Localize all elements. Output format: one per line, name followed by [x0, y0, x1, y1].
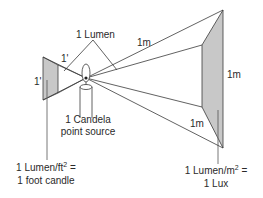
lux-caption-line1: 1 Lumen/m2 = [185, 165, 248, 176]
lux-caption-line2: 1 Lux [204, 178, 228, 189]
candle-point-source [80, 64, 92, 118]
foot-candle-caption-line1: 1 Lumen/ft2 = [16, 162, 76, 173]
foot-candle-equals: = [67, 162, 76, 173]
large-plane-top-edge-label: 1m [137, 37, 151, 48]
large-plane-bottom-edge-label: 1m [190, 118, 204, 129]
large-plane-face [202, 10, 223, 148]
lux-unit: 1 Lumen/m [185, 165, 235, 176]
large-plane [202, 10, 223, 148]
foot-candle-unit: 1 Lumen/ft [16, 162, 63, 173]
foot-candle-caption-line2: 1 foot candle [17, 175, 74, 186]
lumen-label: 1 Lumen [76, 29, 115, 40]
lux-equals: = [239, 165, 248, 176]
source-caption-line1: 1 Candela [65, 114, 111, 125]
point-source-dot [84, 76, 87, 79]
source-caption-line2: point source [61, 126, 115, 137]
large-plane-side-edge-label: 1m [227, 69, 241, 80]
candle-top [80, 85, 92, 90]
small-plane-top-edge-label: 1' [61, 53, 68, 64]
small-plane-side-edge-label: 1' [34, 76, 41, 87]
